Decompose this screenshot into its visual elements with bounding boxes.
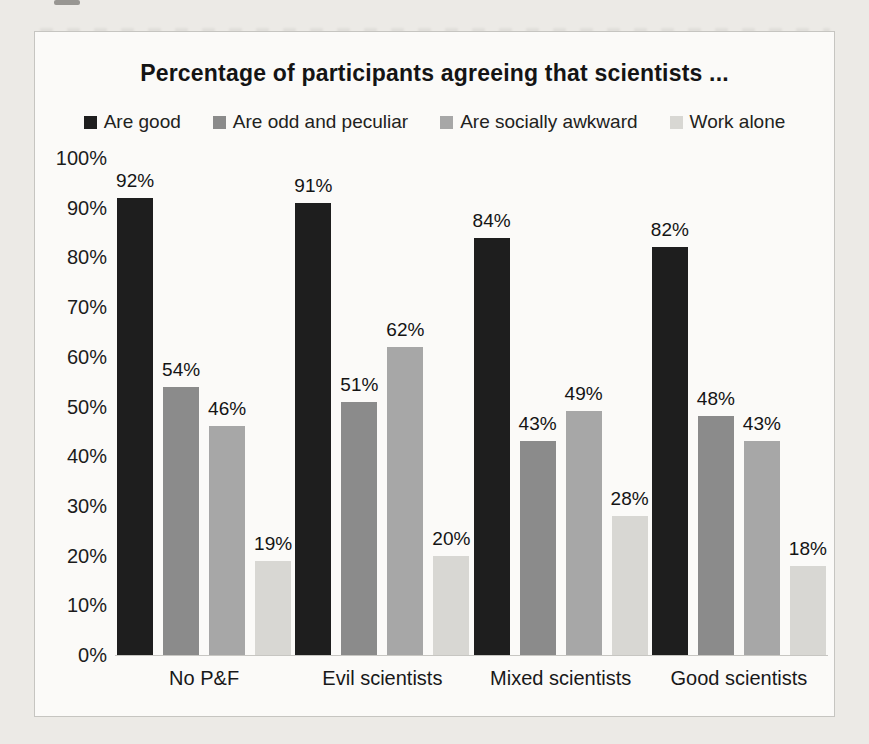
y-axis: 100%90%80%70%60%50%40%30%20%10%0% <box>43 158 115 655</box>
bar-cluster: 91%51%62%20% <box>293 158 471 656</box>
bar-slot: 28% <box>612 158 648 655</box>
plot-area: 92%54%46%19%No P&F91%51%62%20%Evil scien… <box>115 158 828 700</box>
y-axis-tick-label: 30% <box>67 494 107 517</box>
y-axis-tick-label: 100% <box>56 147 107 170</box>
legend-item: Are good <box>84 111 181 133</box>
y-axis-tick-label: 90% <box>67 196 107 219</box>
bar <box>117 198 153 655</box>
category-label: Evil scientists <box>293 656 471 700</box>
y-axis-tick-label: 10% <box>67 594 107 617</box>
bar <box>652 247 688 655</box>
bar <box>698 416 734 655</box>
scan-smudge-artifact <box>54 0 80 5</box>
category-label: Mixed scientists <box>472 656 650 700</box>
bar-slot: 18% <box>790 158 826 655</box>
bar-slot: 54% <box>163 158 199 655</box>
y-axis-tick-label: 60% <box>67 345 107 368</box>
bar-group: 91%51%62%20%Evil scientists <box>293 158 471 700</box>
bar-value-label: 62% <box>386 319 424 341</box>
bar <box>474 238 510 655</box>
bar <box>387 347 423 655</box>
bar-value-label: 51% <box>340 374 378 396</box>
bar-value-label: 19% <box>254 533 292 555</box>
bar-slot: 49% <box>566 158 602 655</box>
bar-group: 92%54%46%19%No P&F <box>115 158 293 700</box>
chart-panel: Percentage of participants agreeing that… <box>34 31 835 717</box>
legend-label: Are odd and peculiar <box>233 111 408 133</box>
bar <box>295 203 331 655</box>
bar-slot: 84% <box>474 158 510 655</box>
bar-group: 82%48%43%18%Good scientists <box>650 158 828 700</box>
y-axis-tick-label: 80% <box>67 246 107 269</box>
bar-slot: 43% <box>744 158 780 655</box>
bar-slot: 46% <box>209 158 245 655</box>
y-axis-tick-label: 50% <box>67 395 107 418</box>
bar-value-label: 54% <box>162 359 200 381</box>
bar <box>163 387 199 655</box>
bar <box>566 411 602 655</box>
legend-item: Are socially awkward <box>440 111 637 133</box>
bar-slot: 20% <box>433 158 469 655</box>
legend-marker-icon <box>84 116 97 129</box>
legend-label: Are socially awkward <box>460 111 637 133</box>
bar-value-label: 91% <box>294 175 332 197</box>
bar-cluster: 84%43%49%28% <box>472 158 650 656</box>
bar <box>255 561 291 655</box>
bar-slot: 43% <box>520 158 556 655</box>
bar-slot: 62% <box>387 158 423 655</box>
bar-value-label: 18% <box>789 538 827 560</box>
legend-marker-icon <box>213 116 226 129</box>
chart-title: Percentage of participants agreeing that… <box>35 58 834 88</box>
bar-value-label: 43% <box>519 413 557 435</box>
y-axis-tick-label: 0% <box>78 644 107 667</box>
category-label: Good scientists <box>650 656 828 700</box>
bar <box>744 441 780 655</box>
y-axis-tick-label: 20% <box>67 544 107 567</box>
bar-value-label: 84% <box>473 210 511 232</box>
bar-value-label: 48% <box>697 388 735 410</box>
bar-value-label: 28% <box>611 488 649 510</box>
legend-label: Are good <box>104 111 181 133</box>
bar-slot: 48% <box>698 158 734 655</box>
legend-item: Are odd and peculiar <box>213 111 408 133</box>
bar-slot: 19% <box>255 158 291 655</box>
bar <box>209 426 245 655</box>
legend-marker-icon <box>670 116 683 129</box>
bar-cluster: 92%54%46%19% <box>115 158 293 656</box>
bar-value-label: 43% <box>743 413 781 435</box>
bar-value-label: 46% <box>208 398 246 420</box>
y-axis-tick-label: 70% <box>67 296 107 319</box>
bar-cluster: 82%48%43%18% <box>650 158 828 656</box>
bar-slot: 91% <box>295 158 331 655</box>
bar-slot: 82% <box>652 158 688 655</box>
legend-marker-icon <box>440 116 453 129</box>
bar <box>433 556 469 655</box>
bar-slot: 51% <box>341 158 377 655</box>
y-axis-tick-label: 40% <box>67 445 107 468</box>
bar-value-label: 82% <box>651 219 689 241</box>
bar <box>341 402 377 655</box>
bar <box>520 441 556 655</box>
bar-value-label: 92% <box>116 170 154 192</box>
category-label: No P&F <box>115 656 293 700</box>
bar-group: 84%43%49%28%Mixed scientists <box>472 158 650 700</box>
legend-item: Work alone <box>670 111 786 133</box>
chart-body: 100%90%80%70%60%50%40%30%20%10%0% 92%54%… <box>35 158 834 700</box>
bar <box>790 566 826 655</box>
bar-slot: 92% <box>117 158 153 655</box>
legend-label: Work alone <box>690 111 786 133</box>
bar-value-label: 49% <box>565 383 603 405</box>
bar <box>612 516 648 655</box>
chart-legend: Are goodAre odd and peculiarAre socially… <box>35 110 834 134</box>
bar-value-label: 20% <box>432 528 470 550</box>
